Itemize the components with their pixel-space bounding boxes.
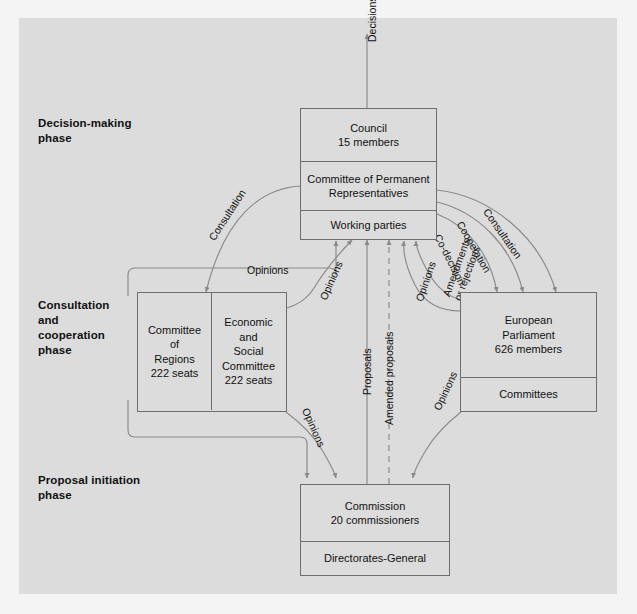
esc-line-4: Committee xyxy=(222,359,275,374)
flow-label-opinions-left-horizontal: Opinions xyxy=(247,264,288,276)
cor-line-3: Regions xyxy=(154,352,194,367)
working-parties-cell: Working parties xyxy=(301,211,436,239)
esc-line-5: 222 seats xyxy=(225,373,273,388)
phase-label-line: phase xyxy=(38,488,140,503)
node-european-parliament[interactable]: European Parliament 626 members Committe… xyxy=(460,292,597,412)
phase-label-line: Decision-making xyxy=(38,116,132,131)
committee-of-regions-cell: Committee of Regions 222 seats xyxy=(138,293,211,410)
esc-line-1: Economic xyxy=(224,315,272,330)
phase-label-line: phase xyxy=(38,131,132,146)
ep-line-3: 626 members xyxy=(495,342,562,357)
council-main-cell: Council 15 members xyxy=(301,109,436,161)
council-title: Council xyxy=(350,121,387,136)
phase-label-line: Consultation xyxy=(38,298,109,313)
economic-social-committee-cell: Economic and Social Committee 222 seats xyxy=(212,293,285,410)
european-parliament-main-cell: European Parliament 626 members xyxy=(461,293,596,377)
ep-line-1: European xyxy=(505,313,553,328)
cor-line-2: of xyxy=(170,337,179,352)
phase-label-line: cooperation xyxy=(38,328,109,343)
commission-title: Commission xyxy=(345,499,406,514)
esc-line-2: and xyxy=(239,330,257,345)
commission-main-cell: Commission 20 commissioners xyxy=(301,485,449,541)
coreper-line-1: Committee of Permanent xyxy=(307,172,429,187)
coreper-line-2: Representatives xyxy=(329,186,409,201)
flow-label-proposals: Proposals xyxy=(361,348,373,395)
esc-line-3: Social xyxy=(234,344,264,359)
phase-label-proposal-initiation: Proposal initiation phase xyxy=(38,473,140,503)
flow-label-amended-proposals: Amended proposals xyxy=(383,332,395,425)
ep-line-2: Parliament xyxy=(502,328,555,343)
directorates-general-label: Directorates-General xyxy=(324,551,426,566)
council-members: 15 members xyxy=(338,135,399,150)
diagram-root: Decision-making phase Consultation and c… xyxy=(0,0,637,614)
cor-line-4: 222 seats xyxy=(151,366,199,381)
node-commission[interactable]: Commission 20 commissioners Directorates… xyxy=(300,484,450,576)
working-parties-label: Working parties xyxy=(330,218,406,233)
phase-label-decision-making: Decision-making phase xyxy=(38,116,132,146)
commission-members: 20 commissioners xyxy=(331,513,420,528)
flow-label-decisions: Decisions xyxy=(366,0,378,42)
cor-line-1: Committee xyxy=(148,323,201,338)
coreper-cell: Committee of Permanent Representatives xyxy=(301,162,436,210)
phase-label-line: phase xyxy=(38,343,109,358)
directorates-general-cell: Directorates-General xyxy=(301,542,449,574)
phase-label-consultation-cooperation: Consultation and cooperation phase xyxy=(38,298,109,358)
phase-label-line: and xyxy=(38,313,109,328)
ep-committees-label: Committees xyxy=(499,387,558,402)
node-council[interactable]: Council 15 members Committee of Permanen… xyxy=(300,108,437,240)
ep-committees-cell: Committees xyxy=(461,378,596,410)
phase-label-line: Proposal initiation xyxy=(38,473,140,488)
node-advisory-committees[interactable]: Committee of Regions 222 seats Economic … xyxy=(137,292,287,412)
